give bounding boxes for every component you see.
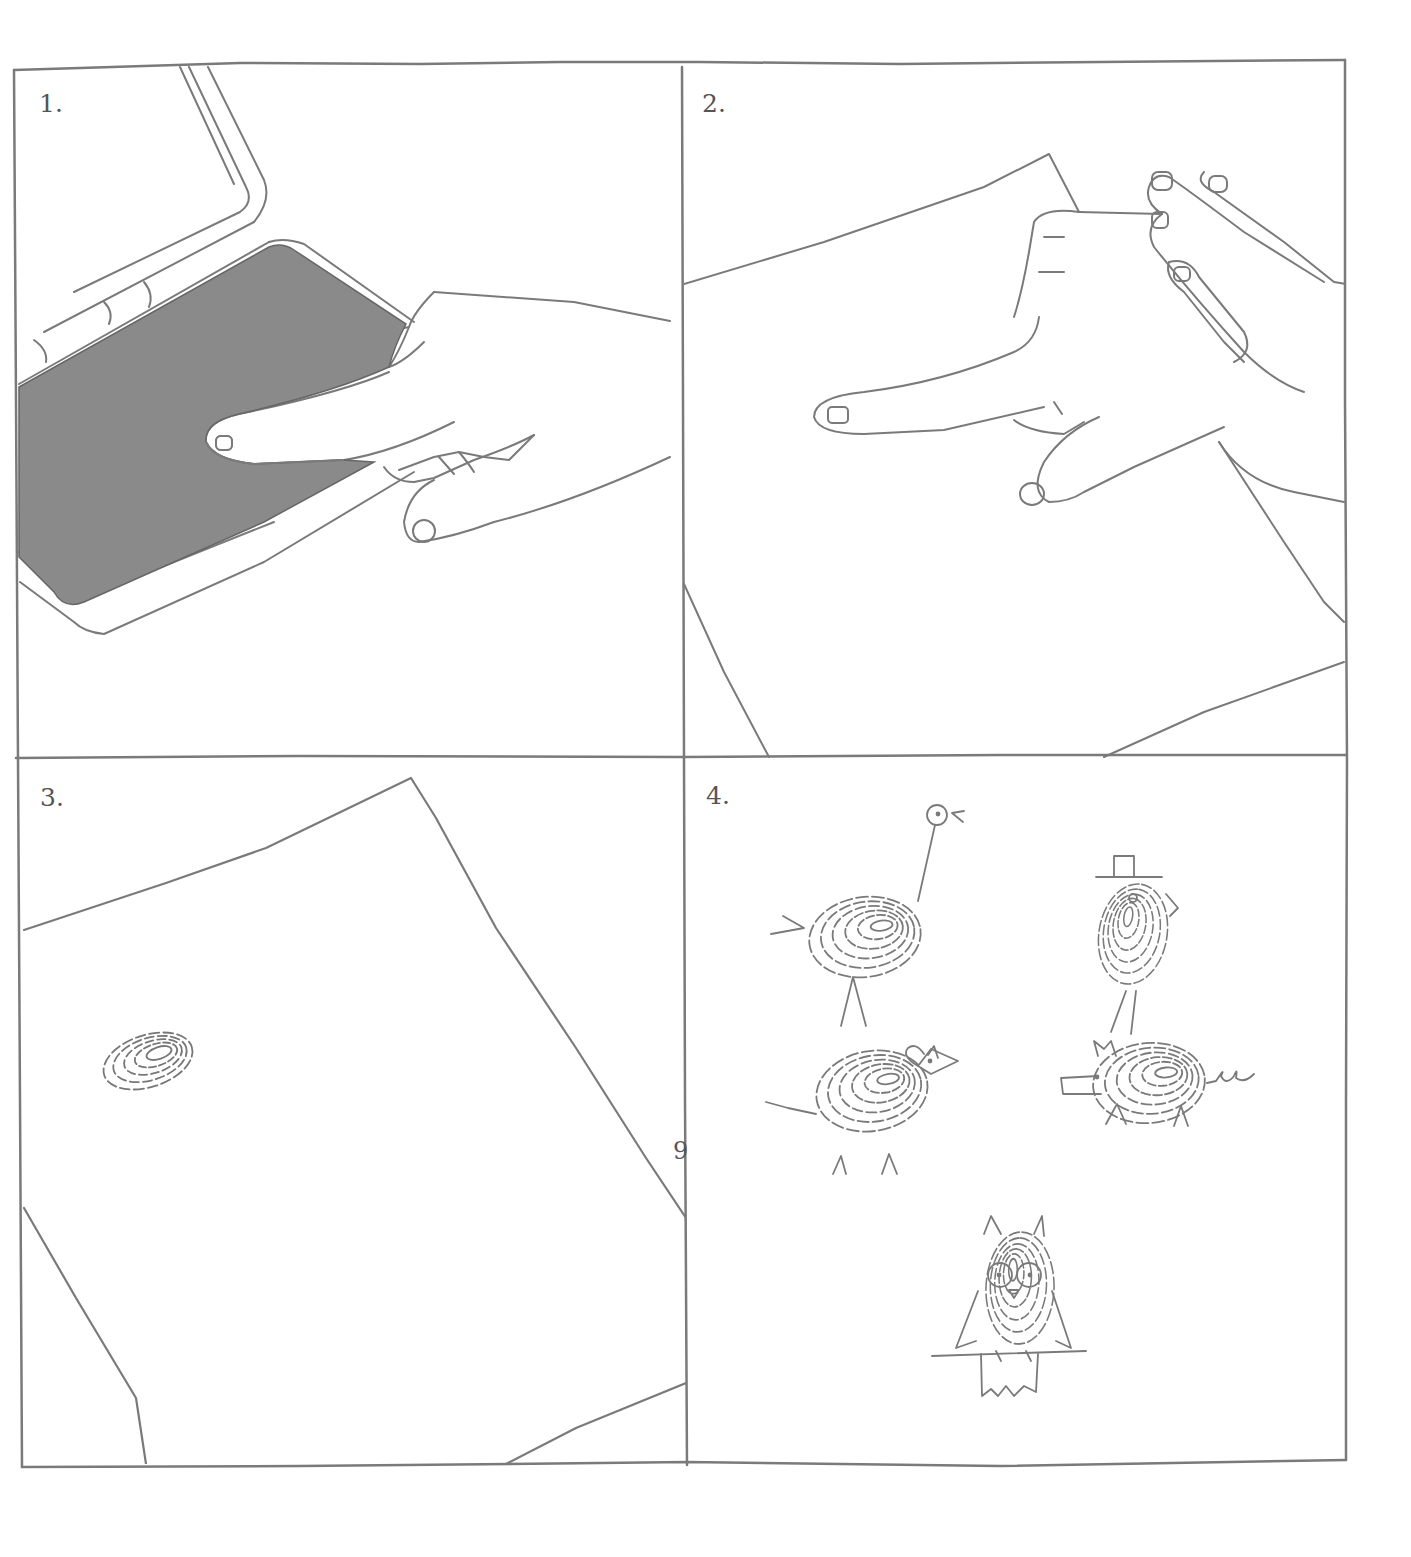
panel-1: 1. [14, 62, 684, 758]
mouse-figure [766, 1042, 958, 1174]
ostrich-figure [771, 805, 964, 1026]
ink-pad-illustration [14, 62, 684, 758]
panel-3: 3. [16, 758, 686, 1464]
fingerprint [96, 1022, 200, 1100]
ink-pad-surface [19, 245, 406, 604]
bird-with-hat-figure [1091, 856, 1178, 1034]
panel-4: 4. [686, 756, 1346, 1464]
panel-number-2: 2. [702, 89, 726, 118]
instruction-page: 1. [0, 0, 1411, 1557]
page-number: 9 [673, 1137, 688, 1165]
panel-number-1: 1. [39, 89, 63, 118]
owl-figure [932, 1216, 1086, 1396]
fingerprint-animals-illustration [686, 756, 1346, 1464]
paper-with-fingerprint-illustration [16, 758, 686, 1464]
paper-and-hand-illustration [684, 62, 1346, 758]
panel-2: 2. [684, 62, 1346, 758]
panel-number-3: 3. [40, 783, 64, 812]
pig-figure [1061, 1038, 1254, 1127]
panel-number-4: 4. [706, 781, 730, 810]
